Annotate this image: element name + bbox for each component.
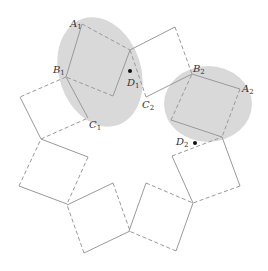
square-edge [84, 231, 130, 253]
square-edge [172, 156, 193, 203]
square-edge [41, 139, 88, 157]
square-edge [129, 231, 176, 251]
square-edge [67, 183, 113, 205]
square-edge [129, 183, 146, 231]
right-highlight-ellipse [164, 66, 252, 142]
square-lower-left [19, 139, 88, 204]
square-edge [20, 97, 41, 139]
square-bottom-right [129, 183, 193, 251]
square-edge [20, 77, 66, 97]
square-edge [67, 205, 84, 253]
square-edge [175, 27, 192, 74]
square-edge [19, 139, 41, 186]
square-edge [193, 186, 240, 203]
diagram-canvas: A1B1C1D1B2A2C2D2 [0, 0, 268, 271]
label-c2: C2 [142, 99, 154, 112]
square-edge [176, 203, 193, 251]
point-d1-dot [128, 69, 132, 73]
square-edge [113, 183, 130, 231]
square-edge [222, 137, 240, 186]
square-edge [19, 186, 67, 204]
square-chain-figure: A1B1C1D1B2A2C2D2 [0, 0, 268, 271]
square-edge [41, 118, 88, 139]
square-bottom-middle [67, 183, 130, 253]
label-d2: D2 [175, 136, 189, 149]
point-d2-dot [193, 141, 197, 145]
square-edge [130, 27, 175, 50]
